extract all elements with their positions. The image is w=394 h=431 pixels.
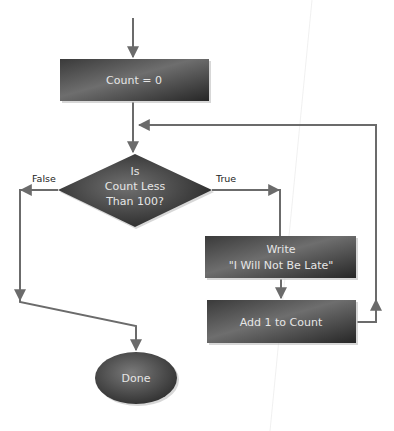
write-line-1: Write <box>266 243 295 256</box>
increment-label: Add 1 to Count <box>240 316 323 329</box>
decision-line-1: Is <box>131 165 140 178</box>
init-label: Count = 0 <box>106 74 162 87</box>
false-edge-label: False <box>32 173 56 184</box>
background-stroke <box>270 0 312 431</box>
init-node[interactable]: Count = 0 <box>60 59 211 103</box>
flowchart-canvas: Count = 0 Is Count Less Than 100? False … <box>0 0 394 431</box>
write-node[interactable]: Write "I Will Not Be Late" <box>205 236 358 280</box>
decision-node[interactable]: Is Count Less Than 100? <box>58 154 214 229</box>
decision-line-2: Count Less <box>105 180 166 193</box>
true-edge-label: True <box>215 173 236 184</box>
decision-line-3: Than 100? <box>105 195 164 208</box>
write-line-2: "I Will Not Be Late" <box>229 259 334 272</box>
loop-back-arrow <box>139 125 376 322</box>
increment-node[interactable]: Add 1 to Count <box>207 300 358 345</box>
true-branch-arrow <box>212 190 280 236</box>
done-node[interactable]: Done <box>95 352 179 406</box>
done-label: Done <box>122 372 151 385</box>
